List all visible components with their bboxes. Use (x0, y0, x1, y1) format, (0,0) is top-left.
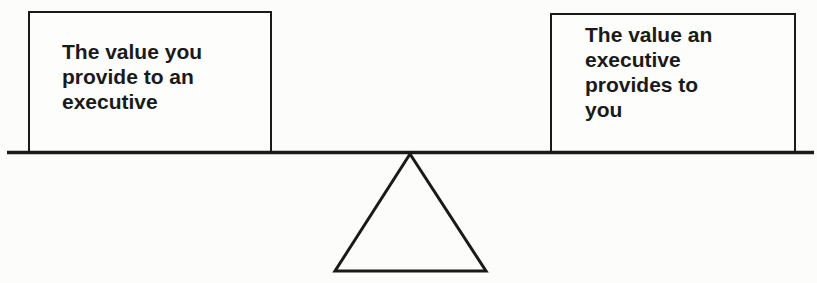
seesaw-graphic (0, 0, 817, 283)
fulcrum-triangle-icon (335, 154, 486, 271)
